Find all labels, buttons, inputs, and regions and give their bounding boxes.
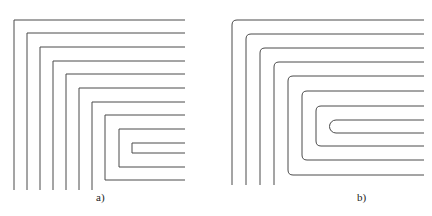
panel-b-label: b) xyxy=(357,191,367,204)
figure-canvas: a) b) xyxy=(0,0,432,216)
panel-b-traces xyxy=(232,20,424,185)
panel-a-traces xyxy=(14,20,185,190)
panel-a-label: a) xyxy=(96,191,105,204)
